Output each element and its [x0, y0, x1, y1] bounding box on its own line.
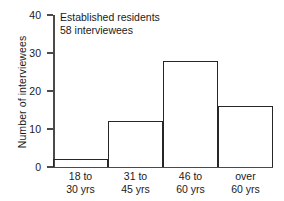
bar-31-to-45-yrs — [108, 121, 163, 167]
y-tick-label: 40 — [17, 10, 41, 21]
y-tick-label: 20 — [17, 86, 41, 97]
x-axis-label-2: 31 to45 yrs — [108, 170, 163, 196]
x-axis-label-line: 46 to — [163, 170, 218, 183]
y-tick-label: 10 — [17, 124, 41, 135]
x-axis-label-line: 18 to — [53, 170, 108, 183]
x-axis-label-line: 60 yrs — [163, 183, 218, 196]
x-axis-label-line: 30 yrs — [53, 183, 108, 196]
bar-chart: Number of interviewees 010203040 Establi… — [0, 0, 284, 201]
x-axis-label-line: 60 yrs — [218, 183, 273, 196]
annotation-line-2: 58 interviewees — [60, 24, 160, 37]
bar-46-to-60-yrs — [163, 61, 218, 167]
x-axis-label-3: 46 to60 yrs — [163, 170, 218, 196]
y-tick-label: 0 — [17, 162, 41, 173]
x-axis-label-line: 31 to — [108, 170, 163, 183]
annotation-line-1: Established residents — [60, 11, 160, 24]
bar-over-60-yrs — [218, 106, 273, 167]
bar-18-to-30-yrs — [53, 159, 108, 167]
x-axis-label-line: over — [218, 170, 273, 183]
cropped-caption-strip — [24, 0, 254, 5]
x-axis-label-4: over60 yrs — [218, 170, 273, 196]
x-axis-labels: 18 to30 yrs31 to45 yrs46 to60 yrsover60 … — [53, 170, 273, 198]
y-tick-label: 30 — [17, 48, 41, 59]
plot-area — [53, 15, 273, 167]
x-axis-label-1: 18 to30 yrs — [53, 170, 108, 196]
chart-annotation: Established residents 58 interviewees — [60, 11, 160, 37]
x-axis-label-line: 45 yrs — [108, 183, 163, 196]
